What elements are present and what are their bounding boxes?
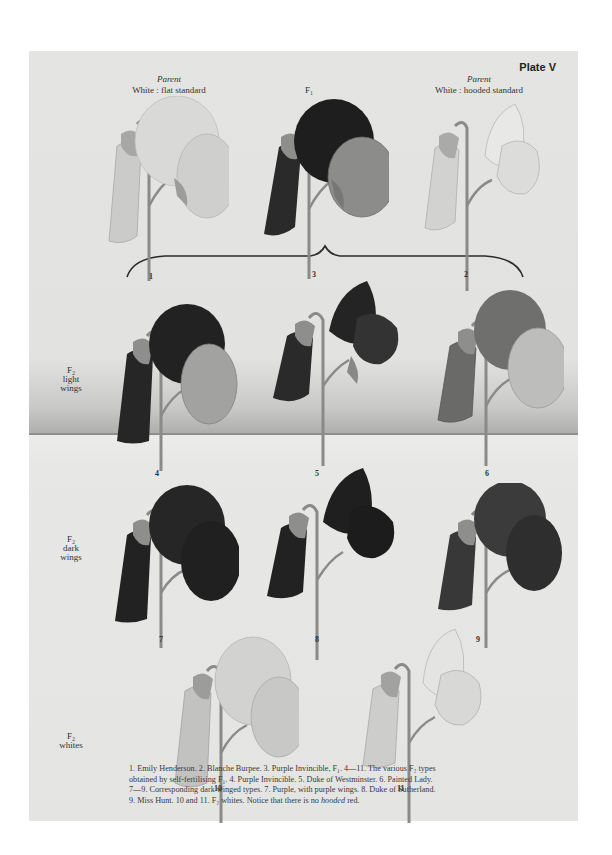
- caption-line: 7—9. Corresponding dark winged types. 7.…: [129, 785, 539, 796]
- plate-caption: 1. Emily Henderson. 2. Blanche Burpee. 3…: [129, 764, 539, 806]
- figure-number: 1: [149, 272, 153, 281]
- column-heading-f1: F₁: [294, 85, 324, 96]
- figure-5-duke-of-westminster: [257, 276, 407, 466]
- column-heading-parent-flat: Parent White : flat standard: [104, 74, 234, 96]
- caption-line: 9. Miss Hunt. 10 and 11. F₂ whites. Noti…: [129, 796, 539, 807]
- figure-1-emily-henderson: [79, 96, 229, 281]
- row-label-line: whites: [51, 741, 91, 750]
- parent-label: Parent: [104, 74, 234, 85]
- caption-text: 9. Miss Hunt. 10 and 11. F₂ whites. Noti…: [129, 796, 321, 805]
- figure-4-purple-invincible: [89, 296, 239, 471]
- plate-number: Plate V: [519, 61, 556, 73]
- figure-number: 8: [315, 635, 319, 644]
- figure-7-purple-with-purple-wings: [89, 483, 239, 648]
- row-label-whites: F₂ whites: [51, 732, 91, 750]
- f1-label: F₁: [305, 85, 313, 95]
- caption-emphasis: hooded: [321, 796, 345, 805]
- column-heading-parent-hooded: Parent White : hooded standard: [409, 74, 549, 96]
- figure-number: 6: [485, 469, 489, 478]
- parent-label: Parent: [409, 74, 549, 85]
- row-label-line: wings: [51, 553, 91, 562]
- parent-description: White : flat standard: [132, 85, 206, 95]
- caption-line: obtained by self-fertilising F₁. 4. Purp…: [129, 775, 539, 786]
- figure-number: 2: [464, 270, 468, 279]
- caption-line: 1. Emily Henderson. 2. Blanche Burpee. 3…: [129, 764, 539, 775]
- caption-text: red.: [345, 796, 360, 805]
- row-label-line: wings: [51, 384, 91, 393]
- plate-page: Plate V Parent White : flat standard F₁ …: [29, 51, 578, 821]
- figure-3-purple-invincible-f1: [239, 99, 389, 279]
- parent-description: White : hooded standard: [435, 85, 523, 95]
- figure-2-blanche-burpee: [397, 96, 547, 291]
- figure-6-painted-lady: [414, 286, 564, 466]
- row-label-dark-wings: F₂ dark wings: [51, 535, 91, 562]
- figure-number: 4: [155, 469, 159, 478]
- row-label-light-wings: F₂ light wings: [51, 366, 91, 393]
